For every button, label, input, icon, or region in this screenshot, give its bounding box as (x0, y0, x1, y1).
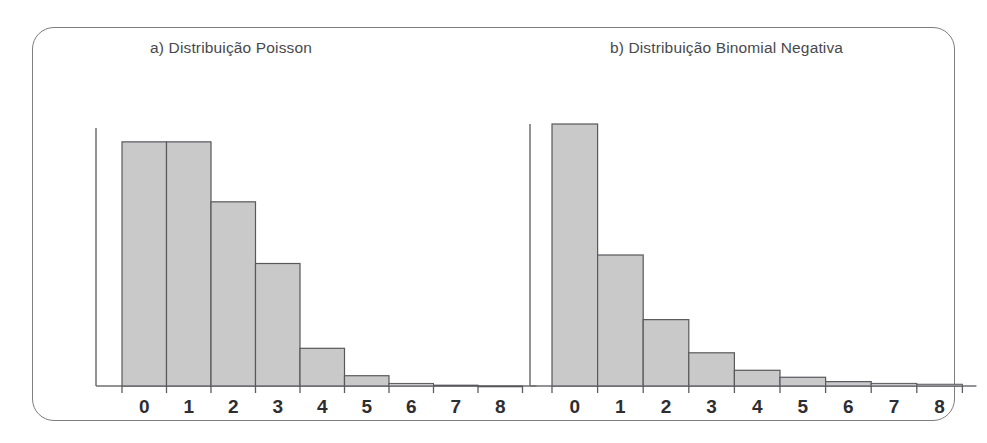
x-tick-label-3: 3 (272, 396, 283, 417)
x-tick-label-1: 1 (615, 396, 626, 417)
panel-poisson: a) Distribuição Poisson 012345678 (33, 28, 473, 422)
x-tick-label-7: 7 (889, 396, 900, 417)
x-tick-label-2: 2 (661, 396, 672, 417)
bar-poisson-7 (434, 385, 479, 386)
x-tick-label-4: 4 (752, 396, 763, 417)
x-tick-label-2: 2 (228, 396, 239, 417)
bar-binomial-negativa-6 (826, 382, 872, 386)
bar-poisson-2 (211, 202, 256, 386)
bar-poisson-0 (122, 142, 167, 386)
panel-binomial-negativa: b) Distribuição Binomial Negativa 012345… (473, 28, 956, 422)
binomial-negativa-plot-area: 012345678 (473, 28, 956, 422)
x-tick-label-0: 0 (139, 396, 150, 417)
bar-binomial-negativa-8 (917, 384, 963, 386)
x-tick-label-3: 3 (706, 396, 717, 417)
bar-binomial-negativa-7 (871, 383, 917, 386)
x-tick-label-0: 0 (570, 396, 581, 417)
poisson-plot-area: 012345678 (33, 28, 473, 422)
x-tick-label-4: 4 (317, 396, 328, 417)
bar-poisson-3 (256, 264, 301, 387)
x-tick-label-6: 6 (843, 396, 854, 417)
bar-binomial-negativa-1 (598, 255, 644, 386)
figure-frame: a) Distribuição Poisson 012345678 b) Dis… (32, 27, 955, 421)
bar-poisson-4 (300, 348, 345, 386)
bar-poisson-1 (167, 142, 212, 386)
bar-poisson-6 (389, 383, 434, 386)
x-tick-label-7: 7 (450, 396, 461, 417)
bar-binomial-negativa-3 (689, 353, 735, 386)
bar-binomial-negativa-5 (780, 377, 826, 386)
x-tick-label-1: 1 (183, 396, 194, 417)
bar-binomial-negativa-4 (734, 370, 780, 386)
bar-binomial-negativa-2 (643, 320, 689, 386)
x-tick-label-5: 5 (361, 396, 372, 417)
x-tick-label-5: 5 (798, 396, 809, 417)
x-tick-label-8: 8 (934, 396, 945, 417)
x-tick-label-6: 6 (406, 396, 417, 417)
bar-poisson-5 (345, 376, 390, 386)
figure-root: a) Distribuição Poisson 012345678 b) Dis… (0, 0, 987, 443)
bar-binomial-negativa-0 (552, 124, 598, 386)
